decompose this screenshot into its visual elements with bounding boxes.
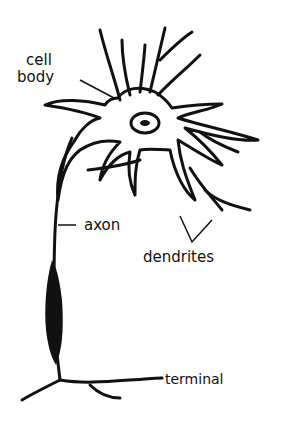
dendrite-branch	[122, 40, 130, 95]
label-cell-body-line2: body	[17, 70, 54, 85]
nucleolus	[140, 120, 150, 126]
dendrite-branch	[150, 28, 165, 92]
dendrite-branch	[140, 45, 145, 92]
label-dendrites: dendrites	[143, 250, 214, 265]
dendrite-branch	[205, 190, 250, 210]
axon-terminal	[22, 380, 60, 400]
label-cell-body-line1: cell	[26, 53, 52, 68]
cell-body-leader	[80, 80, 114, 98]
dendrite-branch	[158, 55, 200, 95]
neuron-diagram: cell body axon dendrites terminal	[0, 0, 291, 434]
label-terminal: terminal	[165, 372, 223, 387]
axon-terminal	[60, 378, 162, 382]
axon-terminal	[90, 385, 120, 398]
dendrite-branch	[100, 30, 120, 100]
dendrite-branch	[160, 32, 192, 60]
myelin-sheath	[45, 260, 63, 365]
dendrites-leader	[180, 216, 212, 242]
cell-body-outline	[45, 88, 258, 200]
label-axon: axon	[84, 218, 120, 233]
